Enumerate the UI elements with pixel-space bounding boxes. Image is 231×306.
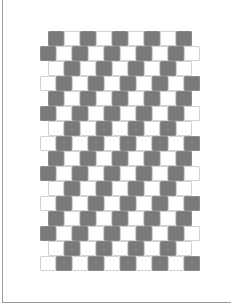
dark-tile <box>72 106 88 121</box>
dark-tile <box>48 151 64 166</box>
light-tile <box>160 31 176 46</box>
dark-tile <box>88 136 104 151</box>
light-tile <box>128 211 144 226</box>
dark-tile <box>88 76 104 91</box>
dark-tile <box>120 136 136 151</box>
light-tile <box>88 166 104 181</box>
light-tile <box>56 166 72 181</box>
light-tile <box>104 256 120 271</box>
light-tile <box>184 226 200 241</box>
dark-tile <box>72 226 88 241</box>
dark-tile <box>128 61 144 76</box>
dark-tile <box>80 91 96 106</box>
dark-tile <box>160 61 176 76</box>
light-tile <box>128 151 144 166</box>
tile-row <box>48 61 192 76</box>
light-tile <box>144 181 160 196</box>
dark-tile <box>104 46 120 61</box>
tile-row <box>48 211 192 226</box>
dark-tile <box>48 211 64 226</box>
dark-tile <box>56 136 72 151</box>
light-tile <box>120 46 136 61</box>
dark-tile <box>40 106 56 121</box>
light-tile <box>184 166 200 181</box>
dark-tile <box>136 106 152 121</box>
dark-tile <box>48 91 64 106</box>
dark-tile <box>40 46 56 61</box>
light-tile <box>152 226 168 241</box>
tile-row <box>48 91 192 106</box>
light-tile <box>160 211 176 226</box>
dark-tile <box>160 241 176 256</box>
dark-tile <box>112 211 128 226</box>
light-tile <box>56 46 72 61</box>
light-tile <box>184 106 200 121</box>
dark-tile <box>128 181 144 196</box>
dark-tile <box>88 196 104 211</box>
dark-tile <box>64 121 80 136</box>
light-tile <box>72 76 88 91</box>
light-tile <box>88 46 104 61</box>
dark-tile <box>176 91 192 106</box>
tile-row <box>48 31 192 46</box>
dark-tile <box>152 76 168 91</box>
dark-tile <box>176 151 192 166</box>
dark-tile <box>176 31 192 46</box>
light-tile <box>160 151 176 166</box>
light-tile <box>80 121 96 136</box>
dark-tile <box>168 166 184 181</box>
light-tile <box>120 226 136 241</box>
light-tile <box>120 166 136 181</box>
dark-tile <box>184 136 200 151</box>
light-tile <box>80 241 96 256</box>
tile-row <box>40 166 200 181</box>
tile-row <box>40 196 200 211</box>
light-tile <box>136 136 152 151</box>
light-tile <box>56 106 72 121</box>
dark-tile <box>40 226 56 241</box>
light-tile <box>96 151 112 166</box>
light-tile <box>128 31 144 46</box>
dark-tile <box>104 226 120 241</box>
dark-tile <box>64 241 80 256</box>
dark-tile <box>176 211 192 226</box>
dark-tile <box>64 181 80 196</box>
dark-tile <box>144 91 160 106</box>
light-tile <box>168 196 184 211</box>
light-tile <box>136 196 152 211</box>
light-tile <box>40 76 56 91</box>
light-tile <box>168 136 184 151</box>
light-tile <box>72 196 88 211</box>
light-tile <box>80 61 96 76</box>
dark-tile <box>96 121 112 136</box>
dark-tile <box>112 151 128 166</box>
light-tile <box>40 256 56 271</box>
dark-tile <box>56 76 72 91</box>
light-tile <box>168 256 184 271</box>
light-tile <box>120 106 136 121</box>
dark-tile <box>72 166 88 181</box>
light-tile <box>144 241 160 256</box>
dark-tile <box>80 151 96 166</box>
dark-tile <box>184 76 200 91</box>
dark-tile <box>56 256 72 271</box>
dark-tile <box>152 256 168 271</box>
dark-tile <box>168 46 184 61</box>
light-tile <box>112 61 128 76</box>
dark-tile <box>152 136 168 151</box>
light-tile <box>96 211 112 226</box>
light-tile <box>48 181 64 196</box>
dark-tile <box>112 31 128 46</box>
light-tile <box>104 196 120 211</box>
light-tile <box>136 256 152 271</box>
cafe-wall-pattern <box>0 0 231 306</box>
light-tile <box>64 211 80 226</box>
dark-tile <box>184 196 200 211</box>
light-tile <box>176 241 192 256</box>
dark-tile <box>168 226 184 241</box>
light-tile <box>168 76 184 91</box>
light-tile <box>48 61 64 76</box>
tile-row <box>40 136 200 151</box>
light-tile <box>112 181 128 196</box>
light-tile <box>64 91 80 106</box>
